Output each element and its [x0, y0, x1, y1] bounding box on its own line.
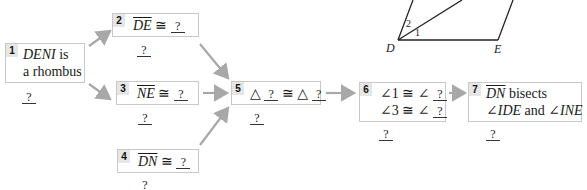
step-7-box: 7 DN bisects ∠IDE and ∠INE	[468, 82, 582, 122]
step-2-statement: DE ≅ ?	[133, 18, 185, 34]
step-1-statement-line2: a rhombus	[23, 64, 82, 80]
angle-label-1: 1	[415, 27, 420, 38]
arrow-4-to-5	[200, 108, 228, 145]
step-1-box: 1 DENI is a rhombus	[5, 43, 85, 83]
step-5-box: 5 △ ? ≅ △ ?	[231, 81, 321, 105]
angle-label-2: 2	[406, 18, 411, 29]
step-2-statement-blank[interactable]: ?	[171, 20, 185, 33]
step-6-box: 6 ∠1 ≅ ∠ ? ∠3 ≅ ∠ ?	[359, 82, 446, 122]
step-3-statement-blank[interactable]: ?	[174, 88, 188, 101]
step-7-reason-blank[interactable]: ?	[486, 128, 500, 141]
step-3-reason-blank[interactable]: ?	[138, 112, 152, 125]
step-7-statement-line1: DN bisects	[486, 86, 547, 102]
triangle-icon: △	[250, 86, 261, 101]
step-2-reason-blank[interactable]: ?	[137, 44, 151, 57]
step-5-statement-blank-2[interactable]: ?	[312, 88, 326, 101]
step-number: 2	[113, 14, 125, 27]
step-number: 6	[360, 83, 372, 96]
step-4-box: 4 DN ≅ ?	[117, 149, 199, 173]
step-number: 1	[6, 44, 18, 57]
side-EN	[498, 0, 513, 40]
arrow-2-to-5	[200, 44, 228, 78]
step-5-statement-blank-1[interactable]: ?	[264, 88, 278, 101]
arrow-1-to-2	[89, 31, 110, 46]
step-6-statement-line2: ∠3 ≅ ∠ ?	[380, 103, 447, 119]
step-number: 5	[232, 82, 244, 95]
step-2-box: 2 DE ≅ ?	[112, 13, 199, 37]
step-number: 7	[469, 83, 481, 96]
arrow-1-to-3	[89, 84, 110, 99]
step-number: 3	[117, 82, 129, 95]
step-3-statement: NE ≅ ?	[137, 86, 188, 102]
step-5-statement: △ ? ≅ △ ?	[250, 86, 326, 102]
step-4-statement: DN ≅ ?	[138, 154, 190, 170]
vertex-label-E: E	[494, 42, 501, 57]
step-6-statement-blank-2[interactable]: ?	[433, 105, 447, 118]
step-6-reason-blank[interactable]: ?	[379, 128, 393, 141]
triangle-icon: △	[297, 86, 308, 101]
step-4-reason-blank[interactable]: ?	[138, 179, 152, 190]
step-5-reason-blank[interactable]: ?	[250, 112, 264, 125]
step-1-statement: DENI is	[23, 47, 69, 63]
step-6-statement-blank-1[interactable]: ?	[433, 88, 447, 101]
step-7-statement-line2: ∠IDE and ∠INE	[486, 103, 583, 119]
step-4-statement-blank[interactable]: ?	[176, 156, 190, 169]
step-1-reason-blank[interactable]: ?	[22, 91, 36, 104]
step-3-box: 3 NE ≅ ?	[116, 81, 199, 105]
vertex-label-D: D	[386, 41, 395, 56]
step-6-statement-line1: ∠1 ≅ ∠ ?	[380, 86, 447, 102]
step-number: 4	[118, 150, 130, 163]
